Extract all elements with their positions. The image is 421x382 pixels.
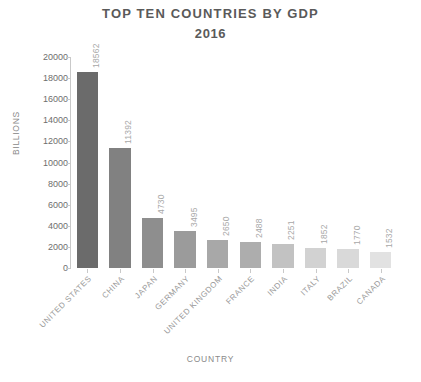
x-tick-mark [218, 269, 219, 273]
bar-group[interactable]: 1532 [370, 57, 392, 268]
bar[interactable] [174, 231, 196, 268]
bar-group[interactable]: 3495 [174, 57, 196, 268]
y-tick-label: 12000 [30, 136, 68, 146]
y-tick-label: 0 [30, 263, 68, 273]
y-axis-title: BILLIONS [11, 141, 21, 155]
x-tick-mark [250, 269, 251, 273]
bar-value-label: 2488 [254, 218, 264, 238]
y-tick-label: 20000 [30, 52, 68, 62]
chart-title: TOP TEN COUNTRIES BY GDP [0, 6, 421, 21]
bar-value-label: 2251 [286, 221, 296, 241]
x-category-label: CANADA [324, 274, 387, 337]
y-tick-label: 10000 [30, 158, 68, 168]
bar-group[interactable]: 4730 [142, 57, 164, 268]
x-tick-mark [185, 269, 186, 273]
bar-value-label: 11392 [123, 120, 133, 144]
bar-value-label: 1770 [352, 226, 362, 246]
y-tick-label: 4000 [30, 221, 68, 231]
bar[interactable] [109, 148, 131, 268]
x-category-label: UNITED STATES [31, 274, 94, 337]
x-category-label: ITALY [259, 274, 322, 337]
bar[interactable] [272, 244, 294, 268]
bar-value-label: 1532 [384, 228, 394, 248]
x-tick-mark [153, 269, 154, 273]
bar-value-label: 18562 [91, 44, 101, 69]
x-tick-mark [87, 269, 88, 273]
bar-group[interactable]: 1852 [305, 57, 327, 268]
bar-group[interactable]: 18562 [77, 57, 99, 268]
bar[interactable] [370, 252, 392, 268]
x-tick-mark [348, 269, 349, 273]
y-axis-tick-labels: 0200040006000800010000120001400016000180… [26, 57, 68, 269]
x-tick-mark [316, 269, 317, 273]
x-axis-title: COUNTRY [0, 354, 421, 364]
x-tick-mark [381, 269, 382, 273]
x-category-label: JAPAN [96, 274, 159, 337]
x-category-label: UNITED KINGDOM [161, 274, 224, 337]
x-category-label: CHINA [63, 274, 126, 337]
bar-group[interactable]: 1770 [337, 57, 359, 268]
bar-value-label: 2650 [221, 216, 231, 236]
bar-group[interactable]: 2650 [207, 57, 229, 268]
bar[interactable] [305, 248, 327, 268]
x-category-label: FRANCE [194, 274, 257, 337]
bar[interactable] [142, 218, 164, 268]
bar-value-label: 3495 [189, 207, 199, 227]
bar-group[interactable]: 2251 [272, 57, 294, 268]
bar[interactable] [77, 72, 99, 268]
x-axis-category-labels: UNITED STATESCHINAJAPANGERMANYUNITED KIN… [71, 274, 397, 352]
bar[interactable] [207, 240, 229, 268]
y-tick-label: 2000 [30, 242, 68, 252]
x-category-label: INDIA [226, 274, 289, 337]
chart-subtitle-year: 2016 [0, 26, 421, 41]
bar[interactable] [240, 242, 262, 268]
y-tick-label: 6000 [30, 200, 68, 210]
gdp-bar-chart: TOP TEN COUNTRIES BY GDP 2016 BILLIONS C… [0, 0, 421, 382]
bar-value-label: 4730 [156, 194, 166, 214]
x-category-label: BRAZIL [292, 274, 355, 337]
bar-value-label: 1852 [319, 225, 329, 245]
x-tick-mark [283, 269, 284, 273]
bar-group[interactable]: 11392 [109, 57, 131, 268]
bar[interactable] [337, 249, 359, 268]
x-tick-mark [120, 269, 121, 273]
plot-area: 1856211392473034952650248822511852177015… [71, 57, 397, 268]
y-tick-label: 14000 [30, 115, 68, 125]
x-category-label: GERMANY [129, 274, 192, 337]
y-tick-label: 18000 [30, 73, 68, 83]
y-tick-label: 16000 [30, 94, 68, 104]
bar-group[interactable]: 2488 [240, 57, 262, 268]
y-tick-label: 8000 [30, 179, 68, 189]
